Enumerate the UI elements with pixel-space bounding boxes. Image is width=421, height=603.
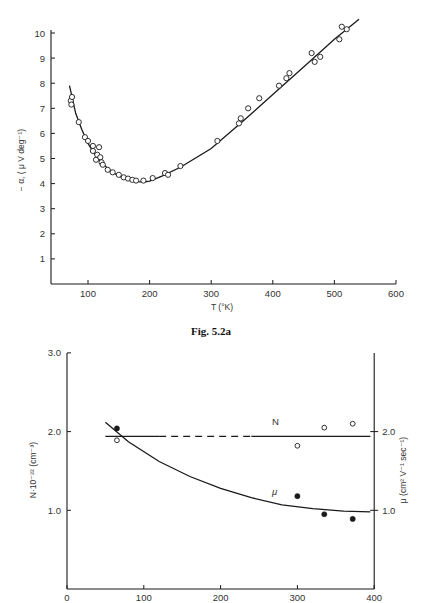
open-circle-marker	[90, 143, 95, 148]
open-circle-marker	[276, 83, 281, 88]
fit-curve	[70, 19, 360, 182]
x-tick-label: 0	[64, 592, 69, 603]
left-y-tick-label: 2.0	[48, 426, 61, 437]
top-chart-y-axis-title: − α, ( μ V deg⁻¹)	[16, 129, 26, 191]
open-circle-marker	[115, 438, 120, 443]
y-tick-label: 9	[40, 53, 45, 64]
bottom-chart-fit-lines	[105, 422, 370, 512]
mu-fit-curve	[105, 422, 370, 512]
y-tick-label: 4	[40, 178, 45, 189]
open-circle-marker	[295, 443, 300, 448]
open-circle-marker	[312, 59, 317, 64]
open-circle-marker	[141, 178, 146, 183]
bottom-chart-axes: 1.02.03.01.02.00100200300400	[48, 347, 396, 603]
filled-circle-marker	[295, 494, 300, 499]
y-tick-label: 6	[40, 128, 45, 139]
top-chart-fit-curve	[70, 19, 360, 182]
filled-circle-marker	[322, 512, 327, 517]
left-y-tick-label: 3.0	[48, 347, 61, 358]
x-tick-label: 300	[203, 288, 219, 299]
open-circle-marker	[238, 116, 243, 121]
x-tick-label: 200	[213, 592, 229, 603]
open-circle-marker	[110, 170, 115, 175]
bottom-chart-right-y-axis-title: μ (cm² V⁻¹ sec⁻¹)	[398, 437, 408, 504]
open-circle-marker	[350, 421, 355, 426]
series-label-mu: μ	[271, 486, 278, 497]
open-circle-marker	[287, 71, 292, 76]
open-circle-marker	[339, 24, 344, 29]
open-circle-marker	[69, 94, 74, 99]
y-tick-label: 5	[40, 153, 45, 164]
open-circle-marker	[318, 54, 323, 59]
x-tick-label: 600	[388, 288, 404, 299]
x-tick-label: 100	[136, 592, 152, 603]
x-tick-label: 200	[142, 288, 158, 299]
open-circle-marker	[116, 172, 121, 177]
x-tick-label: 400	[366, 592, 382, 603]
open-circle-marker	[98, 155, 103, 160]
open-circle-marker	[133, 178, 138, 183]
open-circle-marker	[236, 121, 241, 126]
open-circle-marker	[150, 175, 155, 180]
y-tick-label: 3	[40, 203, 45, 214]
left-y-tick-label: 1.0	[48, 505, 61, 516]
figure-caption: Fig. 5.2a	[191, 325, 232, 337]
seebeck-chart: 12345678910100200300400500600 T (°K) − α…	[16, 19, 404, 312]
open-circle-marker	[90, 148, 95, 153]
figure: 12345678910100200300400500600 T (°K) − α…	[0, 0, 421, 603]
filled-circle-marker	[114, 426, 119, 431]
open-circle-marker	[246, 106, 251, 111]
top-chart-x-axis-title: T (°K)	[211, 302, 233, 312]
x-tick-label: 400	[265, 288, 281, 299]
open-circle-marker	[100, 162, 105, 167]
open-circle-marker	[337, 37, 342, 42]
open-circle-marker	[344, 27, 349, 32]
x-tick-label: 500	[326, 288, 342, 299]
open-circle-marker	[85, 138, 90, 143]
filled-circle-marker	[350, 516, 355, 521]
y-tick-label: 10	[34, 28, 45, 39]
open-circle-marker	[322, 425, 327, 430]
y-tick-label: 2	[40, 228, 45, 239]
y-tick-label: 8	[40, 78, 45, 89]
x-tick-label: 100	[80, 288, 96, 299]
open-circle-marker	[257, 96, 262, 101]
carrier-mobility-chart: 1.02.03.01.02.00100200300400 N μ N·10⁻²²…	[28, 347, 408, 603]
open-circle-marker	[215, 138, 220, 143]
right-y-tick-label: 1.0	[382, 505, 395, 516]
right-y-tick-label: 2.0	[382, 426, 395, 437]
top-chart-data-points	[68, 24, 349, 183]
x-tick-label: 300	[289, 592, 305, 603]
open-circle-marker	[76, 120, 81, 125]
open-circle-marker	[105, 167, 110, 172]
series-label-n: N	[272, 416, 279, 427]
top-chart-axes: 12345678910100200300400500600	[34, 28, 404, 300]
y-tick-label: 1	[40, 253, 45, 264]
open-circle-marker	[284, 76, 289, 81]
open-circle-marker	[96, 145, 101, 150]
open-circle-marker	[178, 163, 183, 168]
open-circle-marker	[69, 102, 74, 107]
open-circle-marker	[309, 50, 314, 55]
bottom-chart-left-y-axis-title: N·10⁻²² (cm⁻³)	[28, 442, 38, 498]
y-tick-label: 7	[40, 103, 45, 114]
open-circle-marker	[165, 172, 170, 177]
